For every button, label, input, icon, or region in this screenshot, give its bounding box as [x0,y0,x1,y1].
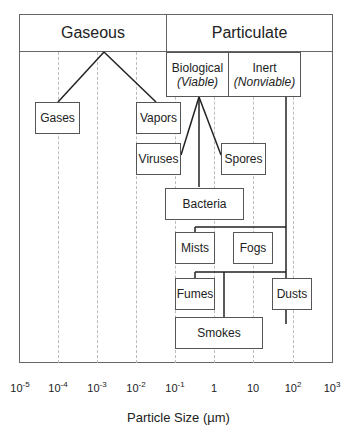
smokes-box: Smokes [175,317,263,349]
tick-label: 10-1 [160,380,190,394]
tick-label: 102 [278,380,308,394]
tick-label: 103 [317,380,347,394]
tick-label: 1 [199,380,229,394]
inert-category: Inert (Nonviable) [228,52,301,97]
biological-category: Biological (Viable) [166,52,229,97]
fogs-box: Fogs [233,232,273,264]
inert-title: Inert [252,61,276,75]
bacteria-box: Bacteria [165,188,244,220]
tick-label: 10-4 [43,380,73,394]
tick-label: 10-3 [82,380,112,394]
viruses-box: Viruses [136,143,181,175]
biological-title: Biological [172,61,223,75]
gases-box: Gases [35,102,80,134]
vapors-box: Vapors [136,102,181,134]
tick-label: 10-2 [121,380,151,394]
mists-box: Mists [175,232,215,264]
dusts-box: Dusts [272,278,312,310]
tick-label: 10 [238,380,268,394]
biological-subtitle: (Viable) [177,75,218,89]
x-axis-label: Particle Size (µm) [0,410,357,425]
spores-box: Spores [221,143,266,175]
inert-subtitle: (Nonviable) [234,75,295,89]
fumes-box: Fumes [175,278,215,310]
tick-label: 10-5 [5,380,35,394]
